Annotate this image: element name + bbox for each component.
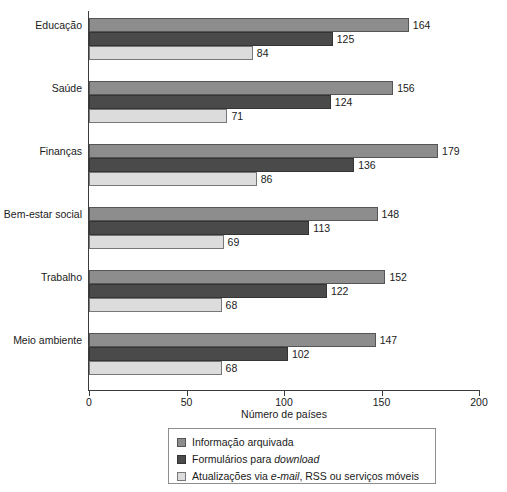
bar-row: 179 bbox=[89, 144, 479, 158]
bar-value-label: 148 bbox=[378, 207, 400, 221]
bar-row: 152 bbox=[89, 270, 479, 284]
bar-group: Meio ambiente14710268 bbox=[89, 333, 479, 375]
bar-row: 86 bbox=[89, 172, 479, 186]
category-label: Finanças bbox=[0, 145, 82, 157]
bar[interactable] bbox=[89, 207, 378, 221]
bar-group: Saúde15612471 bbox=[89, 81, 479, 123]
bar-row: 125 bbox=[89, 32, 479, 46]
x-axis-tick-label: 150 bbox=[362, 396, 402, 408]
x-axis-tick-label: 50 bbox=[167, 396, 207, 408]
bar[interactable] bbox=[89, 270, 385, 284]
x-axis-tick-label: 100 bbox=[264, 396, 304, 408]
bar[interactable] bbox=[89, 144, 438, 158]
bar-value-label: 113 bbox=[309, 221, 330, 235]
bar-value-label: 152 bbox=[385, 270, 407, 284]
bar-row: 113 bbox=[89, 221, 479, 235]
bar-row: 164 bbox=[89, 18, 479, 32]
bar-row: 69 bbox=[89, 235, 479, 249]
bar[interactable] bbox=[89, 361, 222, 375]
bar[interactable] bbox=[89, 18, 409, 32]
legend-swatch-icon bbox=[177, 455, 186, 464]
bar-group: Bem-estar social14811369 bbox=[89, 207, 479, 249]
legend-item[interactable]: Informação arquivada bbox=[177, 434, 435, 450]
bar-row: 136 bbox=[89, 158, 479, 172]
category-label: Educação bbox=[0, 19, 82, 31]
bar[interactable] bbox=[89, 95, 331, 109]
bar[interactable] bbox=[89, 46, 253, 60]
bar[interactable] bbox=[89, 172, 257, 186]
bar-value-label: 84 bbox=[253, 46, 269, 60]
plot-area: Educação16412584Saúde15612471Finanças179… bbox=[89, 12, 479, 390]
bar-row: 84 bbox=[89, 46, 479, 60]
category-label: Saúde bbox=[0, 82, 82, 94]
bar[interactable] bbox=[89, 221, 309, 235]
bar-value-label: 102 bbox=[288, 347, 310, 361]
legend-swatch-icon bbox=[177, 472, 186, 481]
bar-group: Educação16412584 bbox=[89, 18, 479, 60]
x-axis-tick-label: 200 bbox=[459, 396, 499, 408]
bar-value-label: 71 bbox=[227, 109, 243, 123]
category-label: Trabalho bbox=[0, 271, 82, 283]
legend-item[interactable]: Atualizações via e-mail, RSS ou serviços… bbox=[177, 468, 435, 484]
category-label: Bem-estar social bbox=[0, 208, 82, 220]
bar-value-label: 179 bbox=[438, 144, 460, 158]
x-axis-title: Número de países bbox=[89, 408, 479, 420]
bar-row: 71 bbox=[89, 109, 479, 123]
bar-row: 68 bbox=[89, 361, 479, 375]
bar[interactable] bbox=[89, 298, 222, 312]
category-label: Meio ambiente bbox=[0, 334, 82, 346]
legend-item-label: Informação arquivada bbox=[192, 436, 294, 448]
x-axis-tick-label: 0 bbox=[69, 396, 109, 408]
bar-row: 102 bbox=[89, 347, 479, 361]
bar[interactable] bbox=[89, 158, 354, 172]
bar-row: 148 bbox=[89, 207, 479, 221]
bar-value-label: 156 bbox=[393, 81, 415, 95]
bar-value-label: 124 bbox=[331, 95, 353, 109]
bar[interactable] bbox=[89, 32, 333, 46]
bar-value-label: 68 bbox=[222, 298, 238, 312]
bar-value-label: 68 bbox=[222, 361, 238, 375]
bar[interactable] bbox=[89, 109, 227, 123]
bar[interactable] bbox=[89, 347, 288, 361]
bar-row: 122 bbox=[89, 284, 479, 298]
bar[interactable] bbox=[89, 333, 376, 347]
bar-row: 156 bbox=[89, 81, 479, 95]
legend: Informação arquivada Formulários para do… bbox=[168, 428, 436, 484]
bar-row: 68 bbox=[89, 298, 479, 312]
bar-chart: Educação16412584Saúde15612471Finanças179… bbox=[0, 0, 507, 492]
bar-group: Finanças17913686 bbox=[89, 144, 479, 186]
bar-value-label: 86 bbox=[257, 172, 273, 186]
legend-item-label: Atualizações via e-mail, RSS ou serviços… bbox=[192, 470, 419, 482]
bar-group: Trabalho15212268 bbox=[89, 270, 479, 312]
bar[interactable] bbox=[89, 284, 327, 298]
bar[interactable] bbox=[89, 81, 393, 95]
legend-item-label: Formulários para download bbox=[192, 453, 319, 465]
bar-value-label: 122 bbox=[327, 284, 349, 298]
bar-value-label: 164 bbox=[409, 18, 431, 32]
bar-row: 124 bbox=[89, 95, 479, 109]
bar-value-label: 125 bbox=[333, 32, 355, 46]
bar-value-label: 147 bbox=[376, 333, 398, 347]
legend-item[interactable]: Formulários para download bbox=[177, 451, 435, 467]
bar-row: 147 bbox=[89, 333, 479, 347]
bar-value-label: 136 bbox=[354, 158, 376, 172]
bar[interactable] bbox=[89, 235, 224, 249]
bar-value-label: 69 bbox=[224, 235, 240, 249]
legend-swatch-icon bbox=[177, 438, 186, 447]
